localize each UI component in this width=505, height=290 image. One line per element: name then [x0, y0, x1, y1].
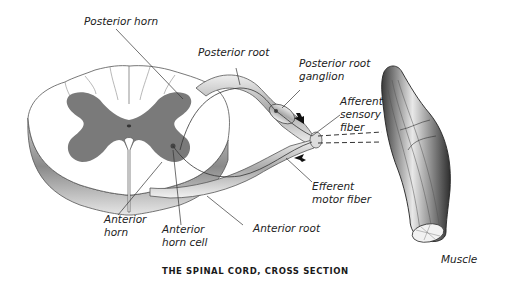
label-posterior-horn: Posterior horn: [84, 15, 158, 27]
muscle: [382, 66, 451, 245]
label-muscle: Muscle: [441, 253, 477, 265]
label-posterior-root-ganglion-line2: ganglion: [299, 70, 344, 82]
spinal-nerve-cut: [310, 132, 322, 148]
spinal-cord-diagram: [0, 0, 505, 290]
label-afferent-line2: sensory: [340, 108, 381, 120]
label-anterior-horn-cell-line1: Anterior: [162, 223, 204, 235]
label-anterior-horn-cell-line2: horn cell: [162, 236, 207, 248]
label-posterior-root: Posterior root: [198, 46, 269, 58]
label-efferent-line1: Efferent: [312, 180, 354, 192]
label-anterior-root: Anterior root: [253, 222, 320, 234]
central-canal: [127, 125, 131, 128]
label-afferent-line1: Afferent: [340, 95, 383, 107]
label-afferent-line3: fiber: [340, 121, 364, 133]
label-anterior-horn-line2: horn: [104, 226, 128, 238]
label-anterior-horn-line1: Anterior: [104, 213, 146, 225]
label-efferent-line2: motor fiber: [312, 193, 371, 205]
diagram-title: THE SPINAL CORD, CROSS SECTION: [162, 266, 349, 276]
label-posterior-root-ganglion-line1: Posterior root: [299, 57, 370, 69]
